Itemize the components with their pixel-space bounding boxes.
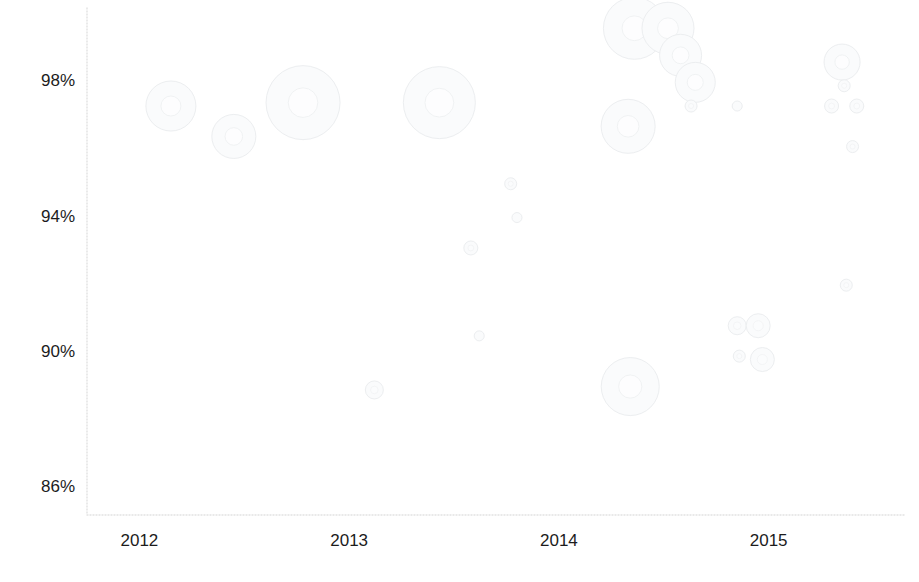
data-point-bubble[interactable]	[685, 100, 697, 112]
bubble-core	[737, 354, 742, 359]
data-point-bubble[interactable]	[850, 99, 864, 113]
data-point-bubble[interactable]	[474, 331, 484, 341]
data-point-bubble[interactable]	[212, 114, 256, 158]
bubble-outer-ring	[732, 101, 742, 111]
y-axis-tick-label: 98%	[41, 71, 75, 91]
bubble-core	[371, 386, 379, 394]
bubble-inner-disc	[687, 74, 703, 90]
data-points-group	[146, 0, 864, 416]
data-point-bubble[interactable]	[146, 81, 196, 131]
bubble-inner-disc	[425, 88, 454, 117]
bubble-core	[842, 83, 847, 88]
bubble-inner-disc	[617, 116, 639, 138]
bubble-core	[757, 354, 767, 364]
bubble-inner-disc	[225, 128, 243, 146]
data-point-bubble[interactable]	[365, 381, 383, 399]
data-point-bubble[interactable]	[601, 99, 655, 153]
bubble-core	[689, 104, 694, 109]
data-point-bubble[interactable]	[728, 317, 746, 335]
y-axis-tick-label: 90%	[41, 342, 75, 362]
x-axis-tick-label: 2013	[309, 531, 389, 551]
bubble-chart: 98%94%90%86% 2012201320142015	[0, 0, 919, 582]
data-point-bubble[interactable]	[746, 314, 770, 338]
data-point-bubble[interactable]	[505, 178, 517, 190]
axes-group	[87, 8, 905, 515]
chart-canvas	[0, 0, 919, 582]
data-point-bubble[interactable]	[464, 241, 478, 255]
bubble-outer-ring	[512, 213, 522, 223]
data-point-bubble[interactable]	[601, 358, 659, 416]
data-point-bubble[interactable]	[733, 350, 745, 362]
bubble-core	[844, 283, 849, 288]
bubble-core	[854, 103, 860, 109]
x-axis-tick-label: 2015	[729, 531, 809, 551]
bubble-core	[468, 245, 474, 251]
data-point-bubble[interactable]	[512, 213, 522, 223]
data-point-bubble[interactable]	[403, 67, 475, 139]
x-axis-tick-label: 2014	[519, 531, 599, 551]
bubble-core	[753, 321, 763, 331]
bubble-inner-disc	[161, 96, 181, 116]
bubble-inner-disc	[835, 55, 849, 69]
data-point-bubble[interactable]	[825, 99, 839, 113]
data-point-bubble[interactable]	[847, 141, 859, 153]
y-axis-tick-label: 94%	[41, 207, 75, 227]
bubble-inner-disc	[672, 47, 689, 64]
bubble-core	[733, 322, 741, 330]
data-point-bubble[interactable]	[750, 348, 774, 372]
data-point-bubble[interactable]	[824, 44, 860, 80]
bubble-core	[850, 144, 855, 149]
data-point-bubble[interactable]	[840, 279, 852, 291]
bubble-inner-disc	[288, 88, 318, 118]
bubble-inner-disc	[619, 375, 642, 398]
data-point-bubble[interactable]	[732, 101, 742, 111]
data-point-bubble[interactable]	[266, 66, 340, 140]
bubble-core	[829, 103, 835, 109]
data-point-bubble[interactable]	[838, 80, 850, 92]
x-axis-tick-label: 2012	[99, 531, 179, 551]
bubble-core	[508, 181, 513, 186]
y-axis-tick-label: 86%	[41, 477, 75, 497]
data-point-bubble[interactable]	[675, 62, 715, 102]
bubble-outer-ring	[474, 331, 484, 341]
